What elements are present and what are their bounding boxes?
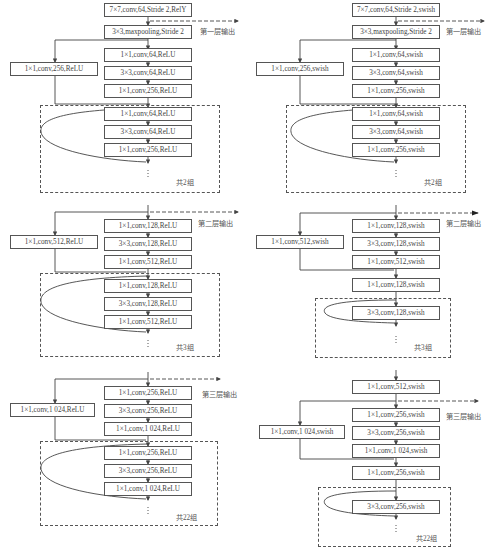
left-s2-main-3: 1×1,conv,512,ReLU [104,255,192,269]
left-s3-rep-2: 3×3,conv,256,ReLU [104,464,192,478]
right-s2-main-2: 3×3,conv,128,swish [352,237,440,251]
left-s2-rep-2: 3×3,conv,128,ReLU [104,297,192,311]
right-output-label-3: 第三层输出 [446,411,481,421]
left-output-label-2: 第二层输出 [198,218,233,228]
left-s1-main-2: 3×3,conv,64,ReLU [104,66,192,80]
left-s1-main-3: 1×1,conv,256,ReLU [104,84,192,98]
left-s1-rep-1: 1×1,conv,64,ReLU [104,107,192,121]
right-s1-shortcut: 1×1,conv,256,swish [256,62,344,76]
left-s3-rep-3: 1×1,conv,1 024,ReLU [104,482,192,496]
left-s2-main-2: 3×3,conv,128,ReLU [104,237,192,251]
right-s1-rep-1: 1×1,conv,64,swish [352,107,440,121]
left-stem-maxpool: 3×3,maxpooling,Stride 2 [104,25,192,39]
right-s1-main-3: 1×1,conv,256,swish [352,84,440,98]
right-s1-rep-2: 3×3,conv,64,swish [352,125,440,139]
right-s3-repeat-label: 共22组 [416,533,437,543]
right-s3-main-2: 3×3,conv,256,swish [352,426,440,440]
right-output-label-2: 第二层输出 [446,218,481,228]
left-s1-rep-2: 3×3,conv,64,ReLU [104,125,192,139]
left-s3-main-2: 3×3,conv,256,ReLU [104,404,192,418]
left-s3-repeat-label: 共22组 [176,512,197,522]
right-s2-shortcut: 1×1,conv,512,swish [256,235,344,249]
left-s2-rep-3: 1×1,conv,512,ReLU [104,315,192,329]
right-s3-pre-top: 1×1,conv,512,swish [352,380,440,394]
right-s3-shortcut: 1×1,conv,1 024,swish [259,425,345,439]
diagram-canvas: 7×7,conv,64,Stride 2,RelY 3×3,maxpooling… [0,0,488,556]
right-s1-repeat-label: 共2组 [424,177,442,187]
left-s3-shortcut: 1×1,conv,1 024,ReLU [10,403,95,417]
left-s1-repeat-label: 共2组 [176,177,194,187]
left-s2-main-1: 1×1,conv,128,ReLU [104,219,192,233]
right-s2-rep-1: 3×3,conv,128,swish [352,306,440,320]
left-s3-main-1: 1×1,conv,256,ReLU [104,386,192,400]
left-s1-main-1: 1×1,conv,64,ReLU [104,48,192,62]
left-s3-rep-1: 1×1,conv,256,ReLU [104,446,192,460]
left-s1-rep-3: 1×1,conv,256,ReLU [104,143,192,157]
right-s1-main-2: 3×3,conv,64,swish [352,66,440,80]
left-stem-conv7x7: 7×7,conv,64,Stride 2,RelY [104,3,192,17]
left-s3-main-3: 1×1,conv,1 024,ReLU [104,422,192,436]
right-stem-conv7x7: 7×7,conv,64,Stride 2,swish [352,3,440,17]
right-s3-main-1: 1×1,conv,256,swish [352,408,440,422]
right-s2-repeat-label: 共3组 [414,342,432,352]
right-s2-main-1: 1×1,conv,128,swish [352,219,440,233]
right-s3-rep-1: 3×3,conv,256,swish [352,500,440,514]
right-output-label-1: 第一层输出 [446,26,481,36]
left-s1-shortcut: 1×1,conv,256,ReLU [10,62,98,76]
left-s2-repeat-label: 共3组 [176,342,194,352]
left-output-label-3: 第三层输出 [202,389,237,399]
right-s3-pre: 1×1,conv,256,swish [352,466,440,480]
right-s3-main-3: 1×1,conv,1 024,swish [352,444,440,458]
right-s2-main-3: 1×1,conv,512,swish [352,255,440,269]
left-s2-rep-1: 1×1,conv,128,ReLU [104,279,192,293]
right-stem-maxpool: 3×3,maxpooling,Stride 2 [352,25,440,39]
right-s1-rep-3: 1×1,conv,256,swish [352,143,440,157]
left-s2-shortcut: 1×1,conv,512,ReLU [10,235,98,249]
right-s1-main-1: 1×1,conv,64,swish [352,48,440,62]
left-output-label-1: 第一层输出 [200,26,235,36]
right-s2-pre: 1×1,conv,128,swish [352,278,440,292]
